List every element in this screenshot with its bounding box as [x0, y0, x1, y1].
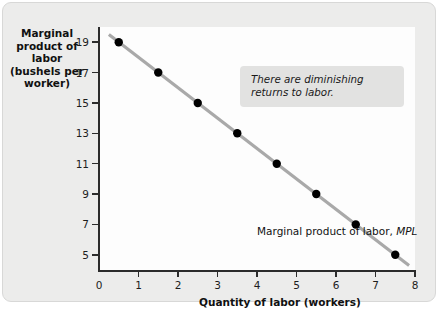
figure-panel: Marginal product of labor (bushels per w…: [2, 2, 436, 302]
data-point: [391, 251, 399, 259]
curve-label-mpl: MPL: [396, 225, 417, 237]
data-point: [312, 190, 320, 198]
data-point: [154, 68, 162, 76]
curve-label: Marginal product of labor, MPL: [257, 225, 417, 237]
data-point: [194, 99, 202, 107]
data-layer: [3, 3, 437, 303]
annotation-line-2: returns to labor.: [251, 86, 395, 99]
curve-label-prefix: Marginal product of labor,: [257, 225, 396, 237]
data-point: [233, 129, 241, 137]
data-point: [273, 159, 281, 167]
annotation-box: There are diminishing returns to labor.: [240, 66, 404, 107]
annotation-line-1: There are diminishing: [251, 73, 395, 86]
data-point: [115, 38, 123, 46]
